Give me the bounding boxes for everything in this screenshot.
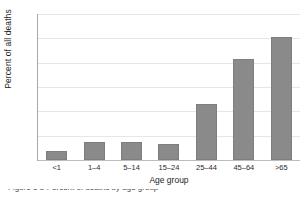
x-tick-label-lt1: <1 bbox=[38, 163, 75, 172]
bar-slot bbox=[225, 14, 262, 160]
bar-series bbox=[38, 14, 300, 160]
bar-slot bbox=[263, 14, 300, 160]
bar-slot bbox=[150, 14, 187, 160]
y-axis-title: Percent of all deaths bbox=[3, 0, 13, 109]
x-tick-label-15-24: 15–24 bbox=[150, 163, 187, 172]
bar-age-45-64[interactable] bbox=[233, 59, 254, 160]
bar-slot bbox=[113, 14, 150, 160]
bar-age-25-44[interactable] bbox=[196, 104, 217, 160]
bar-age-lt1[interactable] bbox=[46, 151, 67, 160]
x-tick-label-45-64: 45–64 bbox=[225, 163, 262, 172]
axis-baseline bbox=[38, 160, 300, 161]
x-tick-label-gt65: >65 bbox=[263, 163, 300, 172]
bar-age-15-24[interactable] bbox=[158, 144, 179, 160]
x-tick-label-5-14: 5–14 bbox=[113, 163, 150, 172]
bar-slot bbox=[38, 14, 75, 160]
figure-container: 0 5 10 15 20 25 30 Percent of all deaths… bbox=[0, 0, 307, 198]
bar-age-5-14[interactable] bbox=[121, 142, 142, 160]
x-axis-ticks: <1 1–4 5–14 15–24 25–44 45–64 >65 bbox=[38, 163, 300, 172]
bar-age-gt65[interactable] bbox=[271, 37, 292, 160]
bar-slot bbox=[75, 14, 112, 160]
x-tick-label-1-4: 1–4 bbox=[75, 163, 112, 172]
figure-caption-clip: Figure 1-2 Percent of deaths by age grou… bbox=[0, 189, 307, 198]
bar-age-1-4[interactable] bbox=[84, 142, 105, 160]
x-axis-title: Age group bbox=[38, 175, 300, 185]
x-tick-label-25-44: 25–44 bbox=[188, 163, 225, 172]
bar-slot bbox=[188, 14, 225, 160]
figure-caption: Figure 1-2 Percent of deaths by age grou… bbox=[8, 189, 307, 193]
